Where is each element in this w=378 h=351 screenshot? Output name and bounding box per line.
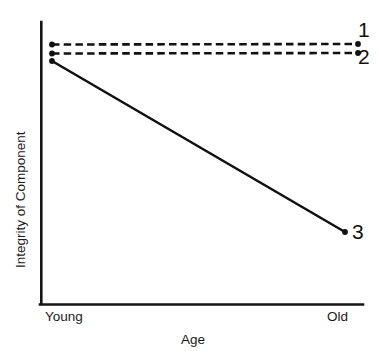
series-1-marker-start bbox=[49, 42, 55, 48]
series-1-group bbox=[49, 41, 361, 47]
series-2-group bbox=[49, 50, 361, 56]
series-3-group bbox=[49, 58, 348, 235]
series-2-label: 2 bbox=[358, 46, 370, 67]
series-3-marker-start bbox=[49, 58, 55, 64]
series-1-label: 1 bbox=[358, 19, 370, 40]
x-axis-tick-young: Young bbox=[45, 310, 83, 324]
series-3-marker-end bbox=[342, 229, 348, 235]
chart-plot-area bbox=[0, 0, 378, 351]
series-3-line bbox=[52, 61, 345, 232]
series-3-label: 3 bbox=[352, 221, 364, 242]
y-axis-title: Integrity of Component bbox=[14, 131, 28, 268]
x-axis-title: Age bbox=[181, 333, 205, 347]
x-axis-tick-old: Old bbox=[327, 310, 348, 324]
chart-figure: 1 2 3 Young Old Age Integrity of Compone… bbox=[0, 0, 378, 351]
series-1-line bbox=[52, 44, 358, 45]
series-2-marker-start bbox=[49, 51, 55, 57]
series-2-line bbox=[52, 53, 358, 54]
